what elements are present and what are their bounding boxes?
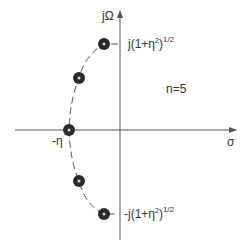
order-label: n=5 — [166, 82, 187, 96]
pole-1 — [98, 38, 110, 50]
sigma-axis-label: σ — [227, 135, 235, 149]
pole-zero-diagram: jΩ σ n=5 -η j(1+η2)1/2 -j(1+η2)1/2 — [0, 0, 247, 250]
pole-5 — [98, 208, 110, 220]
bottom-pole-label: -j(1+η2)1/2 — [124, 205, 175, 221]
pole-2 — [73, 72, 85, 84]
pole-3 — [63, 124, 75, 136]
real-pole-label: -η — [52, 134, 63, 148]
jomega-axis-label: jΩ — [101, 9, 114, 23]
pole-4 — [73, 175, 85, 187]
pole-locus-ellipse-arc — [69, 44, 118, 214]
top-pole-label: j(1+η2)1/2 — [127, 35, 175, 51]
